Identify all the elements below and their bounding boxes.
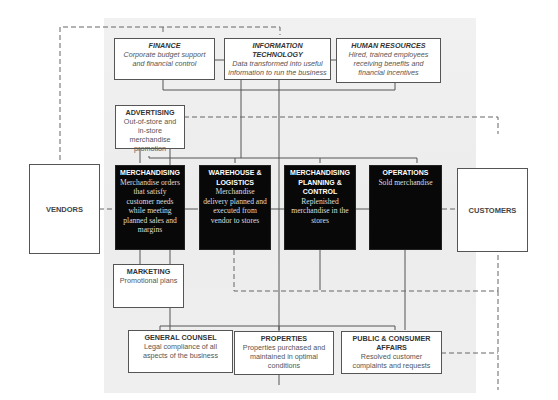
properties-box: PROPERTIES Properties purchased and main… xyxy=(234,331,334,375)
vendors-label: VENDORS xyxy=(46,205,83,214)
marketing-title: MARKETING xyxy=(117,267,180,276)
it-title: INFORMATION TECHNOLOGY xyxy=(228,41,327,59)
marketing-text: Promotional plans xyxy=(120,276,178,285)
pca-text: Resolved customer complaints and request… xyxy=(353,352,431,370)
mpc-text: Replenished merchandise in the stores xyxy=(291,197,348,225)
general-counsel-title: GENERAL COUNSEL xyxy=(132,333,229,342)
finance-box: FINANCE Corporate budget support and fin… xyxy=(114,38,215,80)
warehouse-logistics-box: WAREHOUSE & LOGISTICS Merchandise delive… xyxy=(199,165,271,250)
it-text: Data transformed into useful information… xyxy=(228,59,326,77)
customers-box: CUSTOMERS xyxy=(457,168,528,252)
merchandising-text: Merchandise orders that satisfy customer… xyxy=(120,178,180,235)
hr-text: Hired, trained employees receiving benef… xyxy=(349,50,429,77)
properties-title: PROPERTIES xyxy=(238,334,330,343)
warehouse-text: Merchandise delivery planned and execute… xyxy=(203,187,267,225)
merchandising-title: MERCHANDISING xyxy=(119,168,181,178)
hr-title: HUMAN RESOURCES xyxy=(340,41,437,50)
merch-planning-control-box: MERCHANDISING PLANNING & CONTROL Repleni… xyxy=(284,165,356,250)
finance-title: FINANCE xyxy=(118,41,211,50)
public-consumer-affairs-box: PUBLIC & CONSUMER AFFAIRS Resolved custo… xyxy=(341,331,442,374)
merchandising-box: MERCHANDISING Merchandise orders that sa… xyxy=(115,165,185,250)
information-technology-box: INFORMATION TECHNOLOGY Data transformed … xyxy=(224,38,331,80)
finance-text: Corporate budget support and financial c… xyxy=(124,50,206,68)
marketing-box: MARKETING Promotional plans xyxy=(113,264,184,308)
warehouse-title: WAREHOUSE & LOGISTICS xyxy=(203,168,267,187)
pca-title: PUBLIC & CONSUMER AFFAIRS xyxy=(345,334,438,352)
general-counsel-text: Legal compliance of all aspects of the b… xyxy=(143,342,218,360)
general-counsel-box: GENERAL COUNSEL Legal compliance of all … xyxy=(128,330,233,373)
advertising-text: Out-of-store and in-store merchandise pr… xyxy=(124,117,176,153)
operations-title: OPERATIONS xyxy=(373,168,438,178)
human-resources-box: HUMAN RESOURCES Hired, trained employees… xyxy=(336,38,441,83)
mpc-title: MERCHANDISING PLANNING & CONTROL xyxy=(288,168,352,197)
advertising-box: ADVERTISING Out-of-store and in-store me… xyxy=(115,105,185,149)
advertising-title: ADVERTISING xyxy=(119,108,181,117)
operations-box: OPERATIONS Sold merchandise xyxy=(369,165,442,250)
customers-label: CUSTOMERS xyxy=(469,206,517,215)
vendors-box: VENDORS xyxy=(29,164,100,254)
properties-text: Properties purchased and maintained in o… xyxy=(243,343,325,370)
operations-text: Sold merchandise xyxy=(378,178,432,187)
